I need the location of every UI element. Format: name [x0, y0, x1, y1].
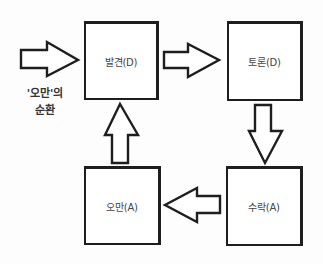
node-label: 발견(D) [105, 54, 137, 69]
arrow-up-icon [105, 104, 138, 163]
arrow-left-icon [165, 188, 220, 222]
node-label: 수락(A) [248, 199, 279, 214]
cycle-title-line2: 순환 [14, 102, 76, 119]
cycle-title: '오만'의 순환 [14, 85, 76, 119]
node-label: 오만(A) [106, 199, 137, 214]
node-discovery: 발견(D) [84, 21, 159, 100]
arrow-right-icon [164, 44, 219, 77]
node-arrogance: 오만(A) [84, 166, 161, 245]
arrow-down-icon [249, 105, 282, 163]
node-acceptance: 수락(A) [226, 166, 303, 246]
cycle-title-line1: '오만'의 [14, 85, 76, 102]
entry-arrow-icon [21, 42, 78, 76]
node-discussion: 토론(D) [227, 21, 303, 101]
node-label: 토론(D) [248, 54, 280, 69]
